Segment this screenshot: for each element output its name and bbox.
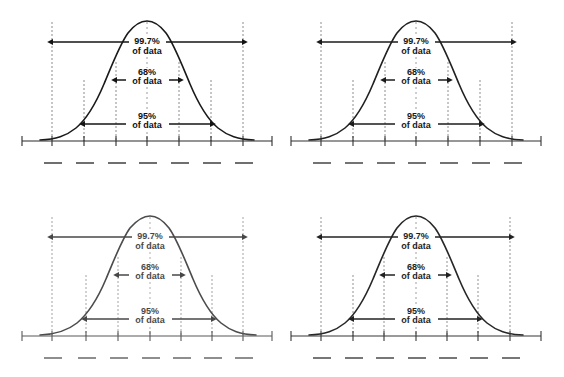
span-95-sublabel: of data bbox=[401, 120, 431, 130]
span-997-percent: 99.7% bbox=[137, 231, 163, 241]
span-997-arrow: 99.7% of data bbox=[53, 231, 242, 252]
normal-curve-diagram: 99.7% of data 68% of data 95% of data bbox=[0, 0, 282, 188]
span-997-arrow: 99.7% of data bbox=[53, 36, 242, 57]
span-997-percent: 99.7% bbox=[403, 36, 429, 46]
span-95-arrow: 95% of data bbox=[85, 111, 210, 130]
normal-curve-diagram: 99.7% of data 68% of data 95% of data bbox=[0, 189, 282, 377]
span-997-arrow: 99.7% of data bbox=[322, 36, 511, 57]
span-95-sublabel: of data bbox=[132, 120, 162, 130]
worksheet-page: 99.7% of data 68% of data 95% of data bbox=[0, 0, 564, 377]
normal-curve-diagram: 99.7% of data 68% of data 95% of data bbox=[282, 189, 564, 377]
chart-panel-top-right: 99.7% of data 68% of data 95% of data bbox=[282, 0, 564, 188]
span-68-arrow: 68% of data bbox=[385, 262, 446, 281]
span-95-arrow: 95% of data bbox=[354, 306, 477, 325]
span-997-sublabel: of data bbox=[401, 241, 431, 251]
span-997-sublabel: of data bbox=[132, 46, 162, 56]
span-68-arrow: 68% of data bbox=[117, 67, 178, 86]
span-997-sublabel: of data bbox=[135, 241, 165, 251]
span-68-sublabel: of data bbox=[401, 271, 431, 281]
span-997-percent: 99.7% bbox=[134, 36, 160, 46]
chart-panel-bottom-right: 99.7% of data 68% of data 95% of data bbox=[282, 189, 564, 377]
span-997-arrow: 99.7% of data bbox=[322, 231, 509, 252]
span-68-sublabel: of data bbox=[132, 76, 162, 86]
span-68-arrow: 68% of data bbox=[119, 262, 180, 281]
chart-panel-top-left: 99.7% of data 68% of data 95% of data bbox=[0, 0, 282, 188]
span-95-sublabel: of data bbox=[135, 315, 165, 325]
chart-panel-bottom-left: 99.7% of data 68% of data 95% of data bbox=[0, 189, 282, 377]
span-95-sublabel: of data bbox=[401, 315, 431, 325]
span-68-sublabel: of data bbox=[135, 271, 165, 281]
span-997-percent: 99.7% bbox=[403, 231, 429, 241]
span-95-arrow: 95% of data bbox=[87, 306, 211, 325]
span-997-sublabel: of data bbox=[401, 46, 431, 56]
span-68-sublabel: of data bbox=[401, 76, 431, 86]
normal-curve-diagram: 99.7% of data 68% of data 95% of data bbox=[282, 0, 564, 188]
span-95-arrow: 95% of data bbox=[354, 111, 479, 130]
span-68-arrow: 68% of data bbox=[386, 67, 447, 86]
